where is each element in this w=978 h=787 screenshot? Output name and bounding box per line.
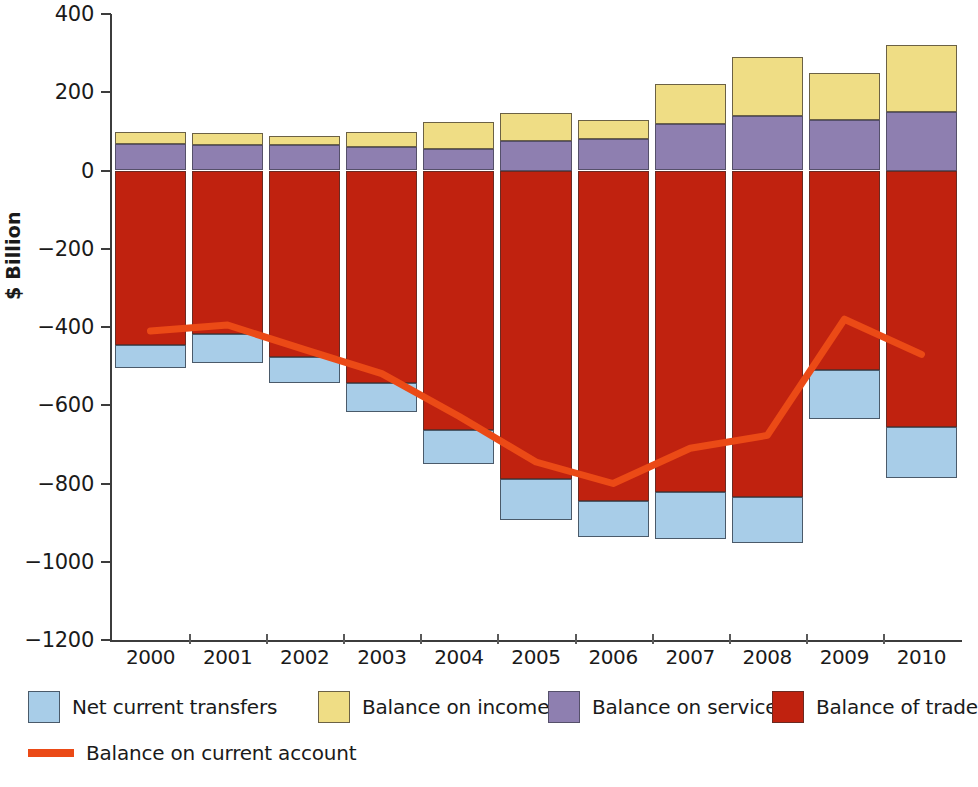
x-axis-ticks: 2000200120022003200420052006200720082009… — [0, 0, 966, 660]
x-tick-mark — [575, 634, 577, 644]
legend-item-label: Balance on services — [592, 695, 788, 719]
x-tick-mark — [497, 634, 499, 644]
legend-item[interactable]: Balance of trade — [772, 685, 978, 729]
legend-item-label: Balance of trade — [816, 695, 978, 719]
x-tick-mark — [189, 634, 191, 644]
x-tick-mark — [883, 634, 885, 644]
x-tick-mark — [652, 634, 654, 644]
legend-color-swatch-trade — [772, 691, 804, 723]
x-tick-mark — [729, 634, 731, 644]
legend-item[interactable]: Balance on services — [548, 685, 788, 729]
legend-item[interactable]: Balance on current account — [28, 731, 356, 775]
legend-item-label: Net current transfers — [72, 695, 277, 719]
legend-item[interactable]: Net current transfers — [28, 685, 277, 729]
legend-item-label: Balance on current account — [86, 741, 356, 765]
plot-area: $ Billion 4002000−200−400−600−800−1000−1… — [0, 0, 966, 660]
legend-item-label: Balance on income — [362, 695, 549, 719]
x-tick-mark — [806, 634, 808, 644]
x-tick-mark — [420, 634, 422, 644]
legend-item[interactable]: Balance on income — [318, 685, 549, 729]
legend-color-swatch-income — [318, 691, 350, 723]
legend-color-swatch-services — [548, 691, 580, 723]
x-tick-mark — [343, 634, 345, 644]
legend-row-primary: Net current transfersBalance on incomeBa… — [0, 685, 966, 729]
legend-line-swatch — [28, 749, 74, 757]
legend-row-secondary: Balance on current account — [0, 731, 966, 775]
legend-color-swatch-transfers — [28, 691, 60, 723]
x-tick-mark — [266, 634, 268, 644]
chart-legend: Net current transfersBalance on incomeBa… — [0, 663, 966, 787]
